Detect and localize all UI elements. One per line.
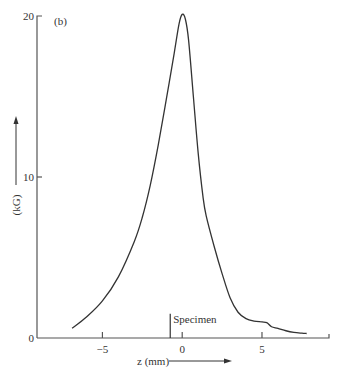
annotations: Specimen [170,313,217,338]
panel-label: (b) [54,15,67,28]
x-arrow-head [224,359,232,364]
x-axis-label: z (mm) [137,355,169,368]
x-tick-label: −5 [97,343,109,355]
y-tick-label: 0 [29,332,35,344]
series-line-b-field [72,14,307,333]
field-profile-chart: −50501020 (b) z (mm) (kG) Specimen [0,0,340,372]
x-tick-label: 0 [179,343,185,355]
specimen-label: Specimen [173,313,217,325]
x-axis-line [37,334,329,338]
axes [37,16,329,338]
y-arrow-head [14,116,19,124]
x-tick-label: 5 [259,343,265,355]
y-axis-label: (kG) [10,194,23,215]
ticks: −50501020 [23,10,265,355]
y-tick-label: 20 [23,10,35,22]
axis-arrows [14,116,233,364]
labels: (b) z (mm) (kG) [10,15,169,368]
y-tick-label: 10 [23,171,35,183]
